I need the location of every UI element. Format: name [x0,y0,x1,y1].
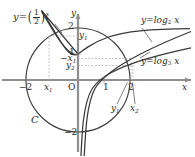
y-axis-label: y [71,9,76,18]
curve-label-log2-base: 2 [168,19,172,25]
paren-close: ) [41,10,45,25]
label-y2-sub: 2 [71,65,75,71]
label-x1-sub: 1 [49,87,53,93]
label-x2-lower: x2 [130,104,139,114]
curve-label-log3-arg: x [174,56,179,66]
label-y1-upper-sub: 1 [84,35,88,41]
y-tick-label-2: 2 [68,22,74,31]
curve-label-log2-equals: = [146,15,154,25]
curve-label-log3-equals: = [146,56,154,66]
curve-label-log3-base: 3 [168,60,172,66]
curve-label-exponential-equals: = [19,11,27,22]
paren-open: ( [28,10,32,25]
label-x1-on-axis: x1 [44,83,53,93]
y-axis-arrowhead [76,13,81,19]
label-x2-lower-sub: 2 [135,108,139,114]
x-tick-label-2: 2 [128,83,134,92]
curve-label-log2: y=log2 x [141,16,179,26]
curve-label-exponential-exponent: x [46,10,49,17]
fraction-one-half: 12 [33,9,40,26]
x-tick-label-neg2: −2 [19,83,32,92]
curve-label-log2-fn: log [154,15,168,25]
x-tick-label-1: 1 [103,83,109,92]
y-tick-label-neg2: −2 [64,128,77,137]
curve-label-log3: y=log3 x [141,57,179,67]
curve-log-base-2 [84,32,191,157]
label-y1-lower: y1 [111,104,120,114]
fraction-denominator: 2 [33,18,40,26]
curve-label-exponential: y=(12)x [13,9,49,26]
circle-label-C: C [31,115,39,125]
curve-label-log2-arg: x [174,15,179,25]
label-y2: y2 [66,61,75,71]
origin-label: O [68,83,75,92]
x-axis-label: x [182,83,187,92]
label-y1-upper: y1 [79,31,88,41]
math-figure: y=(12)x y=log2 x y=log3 x y x O 2 1 −2 −… [0,0,195,156]
curve-label-log3-fn: log [154,56,168,66]
label-y1-lower-sub: 1 [116,108,120,114]
